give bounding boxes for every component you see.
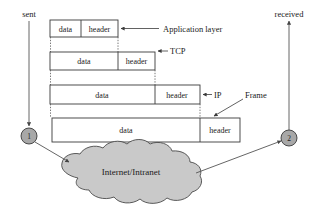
diagram-canvas: sent 1 received 2 data header Applicatio… — [0, 0, 320, 211]
ip-header-label: header — [166, 91, 188, 100]
node1-to-cloud-arrow — [35, 142, 69, 162]
layer-row-tcp: data header — [50, 52, 155, 70]
layer-row-frame: data header — [52, 118, 240, 142]
received-label: received — [275, 9, 305, 19]
application-data-label: data — [59, 25, 73, 34]
tcp-annotation: TCP — [170, 46, 186, 56]
ip-annotation: IP — [214, 90, 222, 100]
node-1-label: 1 — [27, 132, 31, 141]
tcp-data-label: data — [77, 57, 91, 66]
tcp-header-label: header — [126, 57, 148, 66]
application-layer-annotation: Application layer — [163, 24, 222, 34]
node-2-label: 2 — [287, 134, 291, 143]
frame-data-label: data — [119, 126, 133, 135]
internet-cloud-label: Internet/Intranet — [102, 167, 161, 177]
application-header-label: header — [89, 25, 111, 34]
ip-data-label: data — [95, 91, 109, 100]
layer-row-ip: data header — [50, 85, 200, 104]
frame-annotation: Frame — [245, 90, 267, 100]
frame-leader-line — [214, 99, 243, 116]
layer-row-application: data header — [50, 20, 118, 37]
sent-label: sent — [22, 9, 36, 19]
protocol-encapsulation-diagram: sent 1 received 2 data header Applicatio… — [0, 0, 320, 211]
frame-header-label: header — [209, 126, 231, 135]
cloud-to-node2-arrow — [196, 141, 281, 173]
